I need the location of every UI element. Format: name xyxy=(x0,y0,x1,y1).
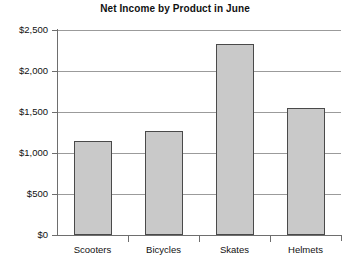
y-axis-label: $0 xyxy=(0,229,48,240)
bar xyxy=(74,141,112,235)
y-axis-line xyxy=(57,29,58,236)
y-axis-tick xyxy=(52,71,58,72)
x-axis-tick xyxy=(199,236,200,242)
gridline xyxy=(57,71,341,72)
y-axis-label: $2,000 xyxy=(0,65,48,76)
y-axis-tick xyxy=(52,30,58,31)
chart-title: Net Income by Product in June xyxy=(0,3,350,14)
x-axis-label-helmets: Helmets xyxy=(270,244,341,255)
bar-chart: Net Income by Product in June $0$500$1,0… xyxy=(0,0,350,265)
x-axis-label-scooters: Scooters xyxy=(57,244,128,255)
y-axis-tick xyxy=(52,112,58,113)
y-axis-label: $500 xyxy=(0,188,48,199)
x-axis-label-skates: Skates xyxy=(199,244,270,255)
x-axis-label-bicycles: Bicycles xyxy=(128,244,199,255)
x-axis-end-tick xyxy=(341,235,342,241)
bar xyxy=(145,131,183,235)
x-axis-tick xyxy=(128,236,129,242)
y-axis-tick xyxy=(52,235,58,236)
bar xyxy=(216,44,254,235)
x-axis-tick xyxy=(270,236,271,242)
y-axis-label: $2,500 xyxy=(0,24,48,35)
bar xyxy=(287,108,325,235)
gridline xyxy=(57,30,341,31)
y-axis-tick xyxy=(52,153,58,154)
y-axis-label: $1,000 xyxy=(0,147,48,158)
y-axis-tick xyxy=(52,194,58,195)
y-axis-label: $1,500 xyxy=(0,106,48,117)
